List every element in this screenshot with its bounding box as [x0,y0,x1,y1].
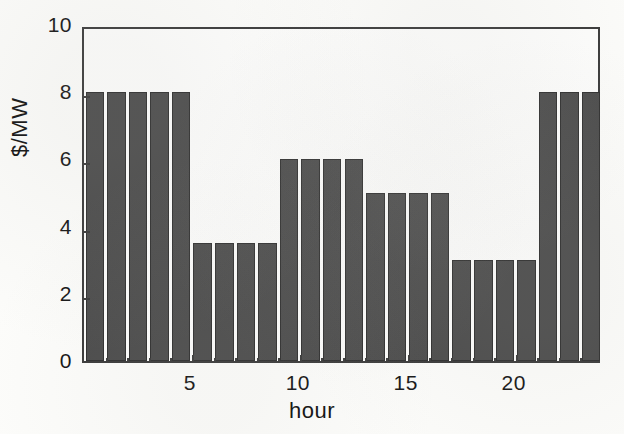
bar [582,92,601,361]
y-tick-mark [83,96,90,98]
y-axis-title: $/MW [7,129,33,157]
x-tick-mark-minor [365,358,367,362]
x-tick-mark-minor [278,358,280,362]
x-tick-mark-minor [214,358,216,362]
plot-area [82,27,600,363]
x-tick-mark-minor [321,358,323,362]
bar [345,159,364,361]
x-tick-label: 10 [268,371,328,395]
bar [86,92,105,361]
x-tick-mark-minor [149,358,151,362]
bar [539,92,558,361]
y-tick-label: 2 [12,282,72,306]
x-tick-mark-minor [170,358,172,362]
bar [496,260,515,361]
x-tick-mark-minor [580,358,582,362]
bar [323,159,342,361]
bar [258,243,277,361]
y-tick-label: 10 [12,13,72,37]
x-tick-mark-minor [127,358,129,362]
bar [107,92,126,361]
bar [172,92,191,361]
bar [474,260,493,361]
y-tick-label: 4 [12,215,72,239]
x-tick-mark-minor [235,358,237,362]
bar [388,193,407,361]
bar [129,92,148,361]
x-tick-mark [408,355,410,362]
x-axis-title: hour [0,398,624,424]
bar [150,92,169,361]
x-tick-mark-minor [473,358,475,362]
bar [517,260,536,361]
bar [409,193,428,361]
chart-figure: 0246810 5101520 $/MW hour [0,0,624,434]
bar [193,243,212,361]
x-tick-mark-minor [559,358,561,362]
x-tick-label: 5 [160,371,220,395]
bar-series [84,29,598,361]
x-tick-mark-minor [106,358,108,362]
bar [366,193,385,361]
x-tick-label: 20 [484,371,544,395]
x-tick-mark [192,355,194,362]
x-tick-mark [516,355,518,362]
y-tick-mark [83,298,90,300]
bar [215,243,234,361]
x-tick-mark-minor [343,358,345,362]
x-tick-mark-minor [494,358,496,362]
y-tick-mark [83,231,90,233]
bar [431,193,450,361]
x-tick-label: 15 [376,371,436,395]
y-tick-label: 0 [12,349,72,373]
y-tick-mark [83,163,90,165]
x-tick-mark-minor [386,358,388,362]
x-tick-mark-minor [451,358,453,362]
bar [301,159,320,361]
x-tick-mark-minor [257,358,259,362]
bar [237,243,256,361]
x-tick-mark [300,355,302,362]
bar [452,260,471,361]
x-tick-mark-minor [429,358,431,362]
bar [560,92,579,361]
x-tick-mark-minor [537,358,539,362]
bar [280,159,299,361]
